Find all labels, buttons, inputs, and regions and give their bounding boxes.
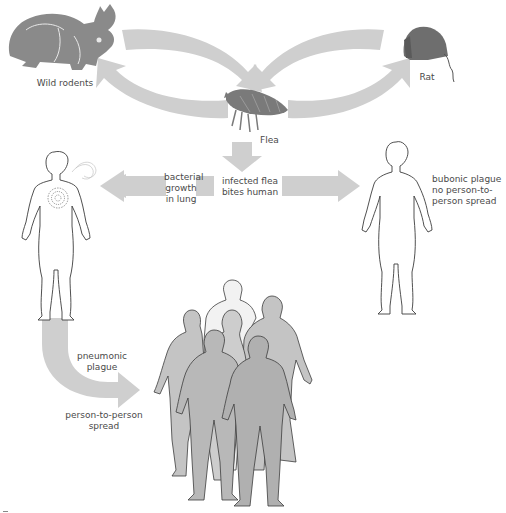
label-line: bites human	[216, 187, 284, 198]
label-line: infected flea	[216, 176, 284, 187]
arrow-rat-to-flea	[250, 29, 384, 92]
plague-transmission-diagram: Wild rodents Rat Flea infected flea bite…	[0, 0, 506, 513]
arrow-flea-to-rat	[288, 58, 410, 118]
arrow-to-bubonic-patient	[282, 176, 340, 196]
label-line: person spread	[432, 196, 501, 207]
human-figure	[362, 142, 432, 314]
exhaled-breath-icon	[72, 162, 96, 179]
label-bubonic-plague: bubonic plague no person-to- person spre…	[432, 174, 501, 207]
label-line: pneumonic	[72, 351, 132, 362]
label-line: no person-to-	[432, 185, 501, 196]
label-flea: Flea	[260, 135, 279, 146]
label-bacterial-growth: bacterial growth in lung	[164, 172, 198, 205]
arrow-flea-to-rodents	[96, 58, 228, 118]
label-line: spread	[54, 421, 154, 432]
corner-mark	[3, 511, 8, 512]
label-line: person-to-person	[54, 410, 154, 421]
label-pneumonic-plague: pneumonic plague	[72, 351, 132, 373]
label-infected-flea-bites-human: infected flea bites human	[216, 176, 284, 198]
label-rat: Rat	[412, 72, 442, 83]
flea-icon	[224, 89, 288, 132]
label-line: plague	[72, 362, 132, 373]
human-figure-with-lung-infection	[22, 151, 96, 320]
label-line: bacterial	[164, 172, 198, 183]
label-line: in lung	[164, 194, 198, 205]
arrow-rodents-to-flea	[122, 29, 262, 92]
label-person-to-person-spread: person-to-person spread	[54, 410, 154, 432]
arrow-flea-down	[222, 142, 262, 172]
label-line: bubonic plague	[432, 174, 501, 185]
crowd-of-humans	[154, 280, 312, 506]
label-line: growth	[164, 183, 198, 194]
label-wild-rodents: Wild rodents	[30, 78, 100, 89]
